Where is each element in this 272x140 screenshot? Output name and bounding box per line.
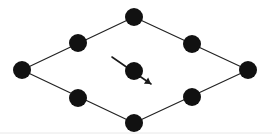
lattice-node-bottom-vertex: [125, 114, 143, 132]
lattice-diagram-canvas: [0, 0, 272, 140]
lattice-node-upper-left: [69, 34, 87, 52]
lattice-node-lower-right: [183, 88, 201, 106]
lattice-node-top-vertex: [125, 8, 143, 26]
lattice-node-lower-left: [69, 89, 87, 107]
lattice-node-left-vertex: [13, 61, 31, 79]
lattice-node-right-vertex: [239, 61, 257, 79]
lattice-figure: [0, 0, 272, 140]
lattice-node-center: [125, 62, 143, 80]
lattice-node-upper-right: [183, 35, 201, 53]
